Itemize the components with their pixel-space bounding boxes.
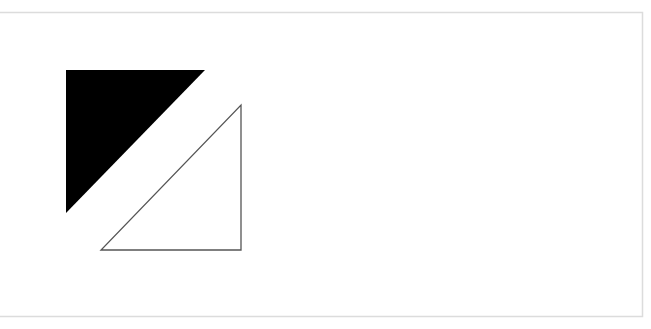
diagram-canvas [0, 0, 651, 329]
diagram-svg [0, 0, 651, 329]
